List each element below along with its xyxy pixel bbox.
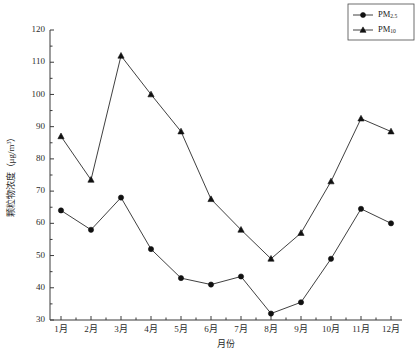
data-point-PM2.5-0 [58,208,63,213]
x-tick-label: 1月 [54,324,68,334]
data-point-PM2.5-7 [268,311,273,316]
x-tick-labels: 1月2月3月4月5月6月7月8月9月10月11月12月 [54,324,400,334]
x-tick-label: 2月 [84,324,98,334]
data-point-PM10-9 [328,178,334,184]
x-tick-label: 9月 [294,324,308,334]
data-point-PM2.5-3 [148,247,153,252]
data-point-PM2.5-9 [328,256,333,261]
data-point-PM2.5-10 [358,206,363,211]
data-point-PM10-2 [118,52,124,58]
x-tick-label: 3月 [114,324,128,334]
series-group [58,52,394,316]
data-point-PM10-0 [58,133,64,139]
x-tick-label: 10月 [322,324,340,334]
y-tick-labels: 30405060708090100110120 [32,24,46,324]
y-tick-label: 40 [36,282,46,292]
data-point-PM2.5-11 [388,221,393,226]
x-tick-label: 12月 [382,324,400,334]
y-axis-title: 颗粒物浓度（μg/m3） [5,133,16,218]
y-tick-label: 50 [36,250,46,260]
axes-group [50,30,402,320]
data-point-PM10-5 [208,196,214,202]
series-PM10 [58,52,394,261]
data-point-PM10-10 [358,115,364,121]
data-point-PM2.5-5 [208,282,213,287]
chart-legend[interactable]: PM2.5PM10 [348,4,414,40]
y-tick-label: 110 [32,56,46,66]
y-tick-label: 90 [36,121,46,131]
data-point-PM2.5-8 [298,300,303,305]
particulate-concentration-line-chart: 30405060708090100110120 1月2月3月4月5月6月7月8月… [0,0,417,362]
series-PM2.5 [58,195,393,316]
data-point-PM2.5-6 [238,274,243,279]
x-tick-label: 4月 [144,324,158,334]
series-line-PM10 [61,56,391,259]
y-tick-label: 80 [36,153,46,163]
x-axis-title: 月份 [217,338,235,349]
x-tick-label: 7月 [234,324,248,334]
data-point-PM2.5-4 [178,276,183,281]
x-tick-label: 8月 [264,324,278,334]
y-tick-label: 30 [36,314,46,324]
y-tick-label: 100 [32,89,46,99]
data-point-PM2.5-2 [118,195,123,200]
x-tick-label: 6月 [204,324,218,334]
ticks-group [50,30,391,320]
y-tick-label: 120 [32,24,46,34]
y-tick-label: 70 [36,185,46,195]
data-point-PM2.5-1 [88,227,93,232]
y-axis-title-text: 颗粒物浓度（μg/m3） [5,133,16,218]
x-tick-label: 5月 [174,324,188,334]
x-tick-label: 11月 [352,324,370,334]
data-point-PM10-8 [298,230,304,236]
y-tick-label: 60 [36,217,46,227]
chart-canvas: 30405060708090100110120 1月2月3月4月5月6月7月8月… [0,0,417,362]
legend-marker-circle [361,13,366,18]
